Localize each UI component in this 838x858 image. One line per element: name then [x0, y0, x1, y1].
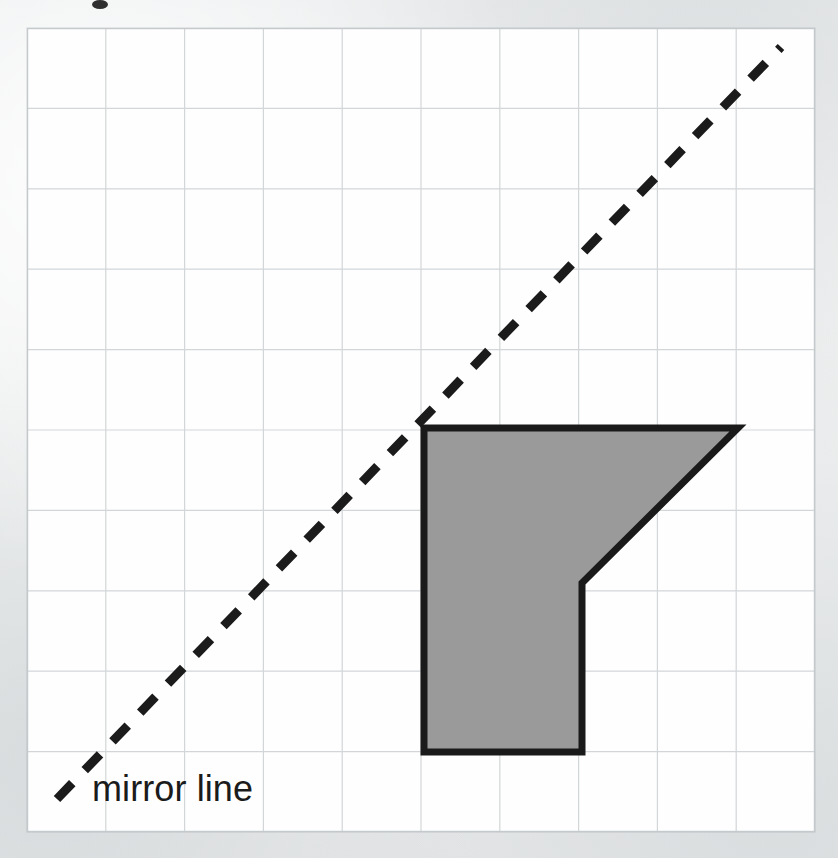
- worksheet-page: mirror line: [0, 0, 838, 858]
- grid-panel: [27, 28, 815, 832]
- grid-lines: [27, 28, 815, 832]
- mirror-line-label: mirror line: [92, 771, 253, 807]
- ink-speck: [92, 0, 108, 9]
